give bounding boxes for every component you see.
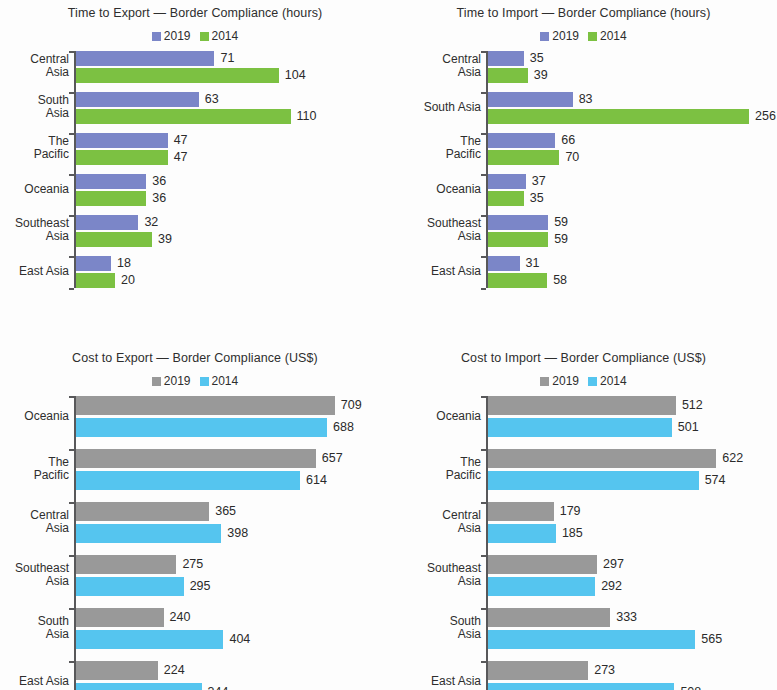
bar-value-label: 333 xyxy=(616,611,637,624)
bar-value-label: 657 xyxy=(322,452,343,465)
bar-row: 70 xyxy=(488,150,579,165)
bar-2019 xyxy=(488,608,610,627)
bar-value-label: 574 xyxy=(705,474,726,487)
bar-2014 xyxy=(76,630,223,649)
bar-value-label: 63 xyxy=(205,93,219,106)
legend-label-2014: 2014 xyxy=(212,375,239,387)
axis-tick xyxy=(481,51,486,53)
category-axis-label: The Pacific xyxy=(1,135,69,161)
axis-tick xyxy=(69,51,74,53)
bar-2019 xyxy=(488,661,588,680)
bar-value-label: 256 xyxy=(755,110,776,123)
category-axis-label: The Pacific xyxy=(1,456,69,482)
bar-2014 xyxy=(488,418,672,437)
bar-value-label: 292 xyxy=(601,580,622,593)
bar-row: 333 xyxy=(488,608,637,627)
bar-row: 224 xyxy=(76,661,185,680)
bar-value-label: 508 xyxy=(680,686,701,690)
category-group: The Pacific657614 xyxy=(0,449,390,490)
category-axis-label: East Asia xyxy=(1,265,69,278)
bar-2019 xyxy=(76,133,168,148)
category-axis-label: Central Asia xyxy=(1,509,69,535)
bar-2014 xyxy=(488,68,528,83)
category-group: Southeast Asia275295 xyxy=(0,555,390,596)
bar-row: 565 xyxy=(488,630,722,649)
plot-area: Oceania512501The Pacific622574Central As… xyxy=(390,396,777,690)
legend-swatch-2019 xyxy=(540,377,549,386)
bar-row: 297 xyxy=(488,555,624,574)
bar-2014 xyxy=(76,191,146,206)
legend-swatch-2014 xyxy=(588,377,597,386)
category-group: Oceania709688 xyxy=(0,396,390,437)
category-axis-label: Oceania xyxy=(1,183,69,196)
legend-entry-2019: 2019 xyxy=(540,375,579,387)
chart-legend: 2019 2014 xyxy=(390,30,777,42)
bar-value-label: 398 xyxy=(227,527,248,540)
bar-2019 xyxy=(488,92,573,107)
bar-2019 xyxy=(76,92,199,107)
bar-2014 xyxy=(76,683,202,690)
chart-legend: 2019 2014 xyxy=(0,30,390,42)
bar-row: 32 xyxy=(76,215,158,230)
axis-tick xyxy=(69,288,74,290)
category-group: Oceania3735 xyxy=(390,174,777,206)
axis-tick xyxy=(69,92,74,94)
axis-tick xyxy=(481,92,486,94)
bar-value-label: 36 xyxy=(152,175,166,188)
bar-row: 688 xyxy=(76,418,354,437)
category-axis-label: Oceania xyxy=(391,183,481,196)
bar-2019 xyxy=(76,608,164,627)
legend-label-2014: 2014 xyxy=(600,375,627,387)
bar-value-label: 39 xyxy=(158,233,172,246)
bar-value-label: 31 xyxy=(526,257,540,270)
bar-row: 240 xyxy=(76,608,190,627)
bar-2019 xyxy=(488,396,676,415)
bar-2019 xyxy=(488,215,548,230)
bar-row: 273 xyxy=(488,661,615,680)
category-axis-label: South Asia xyxy=(1,94,69,120)
category-axis-label: Central Asia xyxy=(391,509,481,535)
bar-2014 xyxy=(76,577,184,596)
bar-row: 179 xyxy=(488,502,581,521)
bar-value-label: 273 xyxy=(594,664,615,677)
bar-2019 xyxy=(76,449,316,468)
axis-tick xyxy=(69,133,74,135)
category-axis-label: Southeast Asia xyxy=(1,562,69,588)
category-axis-label: Southeast Asia xyxy=(391,217,481,243)
bar-row: 622 xyxy=(488,449,743,468)
bar-row: 104 xyxy=(76,68,306,83)
legend-entry-2019: 2019 xyxy=(152,375,191,387)
bar-row: 71 xyxy=(76,51,234,66)
axis-tick xyxy=(481,396,486,398)
bar-row: 18 xyxy=(76,256,131,271)
legend-label-2019: 2019 xyxy=(164,375,191,387)
bar-value-label: 83 xyxy=(579,93,593,106)
axis-tick xyxy=(69,174,74,176)
bar-row: 20 xyxy=(76,273,135,288)
chart-panel-cost-import: Cost to Import — Border Compliance (US$)… xyxy=(390,345,777,690)
category-group: South Asia333565 xyxy=(390,608,777,649)
bar-row: 614 xyxy=(76,471,327,490)
legend-entry-2019: 2019 xyxy=(152,30,191,42)
bar-value-label: 37 xyxy=(532,175,546,188)
bar-value-label: 47 xyxy=(174,151,188,164)
category-axis-label: East Asia xyxy=(1,675,69,688)
category-group: Central Asia365398 xyxy=(0,502,390,543)
bar-row: 657 xyxy=(76,449,343,468)
bar-2014 xyxy=(76,232,152,247)
bar-row: 574 xyxy=(488,471,726,490)
bar-2014 xyxy=(488,191,524,206)
chart-legend: 2019 2014 xyxy=(0,375,390,387)
bar-row: 110 xyxy=(76,109,316,124)
bar-2014 xyxy=(488,471,699,490)
category-axis-label: Central Asia xyxy=(391,53,481,79)
category-axis-label: Southeast Asia xyxy=(1,217,69,243)
bar-row: 512 xyxy=(488,396,703,415)
plot-area: Oceania709688The Pacific657614Central As… xyxy=(0,396,390,690)
chart-title: Time to Export — Border Compliance (hour… xyxy=(0,0,390,20)
bar-2014 xyxy=(488,232,548,247)
axis-tick xyxy=(69,661,74,663)
category-group: The Pacific4747 xyxy=(0,133,390,165)
bar-2019 xyxy=(76,256,111,271)
bar-value-label: 297 xyxy=(603,558,624,571)
